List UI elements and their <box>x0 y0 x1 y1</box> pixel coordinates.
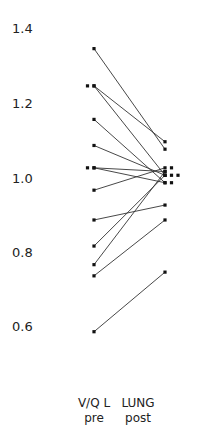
data-point <box>170 166 173 169</box>
data-point <box>92 144 95 147</box>
data-point <box>92 244 95 247</box>
data-point <box>92 330 95 333</box>
data-point <box>170 174 173 177</box>
category-line1: LUNG <box>116 396 160 411</box>
data-point <box>163 174 166 177</box>
data-point <box>86 166 89 169</box>
category-line2: pre <box>72 411 116 426</box>
data-point <box>92 263 95 266</box>
x-category-post: LUNG post <box>116 396 160 426</box>
y-tick-label: 1.2 <box>12 97 33 111</box>
data-point <box>170 181 173 184</box>
data-points <box>86 47 180 333</box>
pair-line <box>94 119 165 182</box>
data-point <box>163 140 166 143</box>
data-point <box>176 174 179 177</box>
y-tick-label: 1.4 <box>12 22 33 36</box>
pair-line <box>94 86 165 142</box>
category-line1: V/Q L <box>72 396 116 411</box>
x-category-pre: V/Q L pre <box>72 396 116 426</box>
pair-line <box>94 272 165 332</box>
y-tick-label: 0.8 <box>12 246 33 260</box>
data-point <box>92 84 95 87</box>
data-point <box>92 166 95 169</box>
pair-lines <box>94 49 165 332</box>
data-point <box>163 218 166 221</box>
data-point <box>86 84 89 87</box>
data-point <box>163 203 166 206</box>
pair-line <box>94 168 165 190</box>
data-point <box>163 148 166 151</box>
y-tick-label: 0.6 <box>12 320 33 334</box>
data-point <box>163 181 166 184</box>
data-point <box>92 189 95 192</box>
pair-line <box>94 220 165 276</box>
data-point <box>92 47 95 50</box>
paired-slope-chart <box>0 0 200 434</box>
data-point <box>92 118 95 121</box>
data-point <box>163 271 166 274</box>
data-point <box>163 166 166 169</box>
data-point <box>163 170 166 173</box>
y-tick-label: 1.0 <box>12 172 33 186</box>
data-point <box>92 218 95 221</box>
data-point <box>92 274 95 277</box>
category-line2: post <box>116 411 160 426</box>
